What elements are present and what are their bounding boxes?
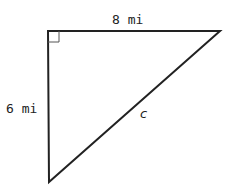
triangle-diagram: 8 mi 6 mi c (0, 0, 233, 191)
right-angle-marker (48, 31, 59, 42)
hypotenuse-label: c (140, 106, 147, 121)
top-side-label: 8 mi (112, 12, 143, 27)
triangle-shape (0, 0, 233, 191)
left-side-label: 6 mi (6, 101, 37, 116)
